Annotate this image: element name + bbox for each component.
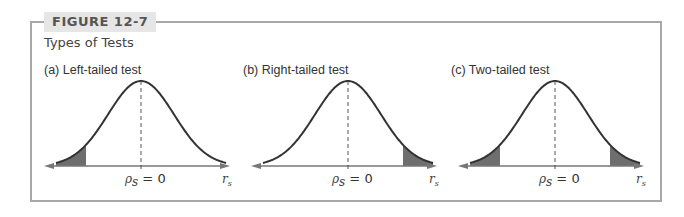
left-arrow-icon <box>251 163 261 169</box>
right-tailed-chart: ρs = 0rs <box>241 76 441 191</box>
panel-a-title: (a) Left-tailed test <box>44 63 141 77</box>
figure-title: Types of Tests <box>44 35 134 50</box>
left-arrow-icon <box>44 163 54 169</box>
two-tailed-chart: ρs = 0rs <box>448 76 648 191</box>
x-axis-label: rs <box>222 172 232 188</box>
x-axis-label: rs <box>636 172 646 188</box>
left-tailed-chart: ρs = 0rs <box>34 76 234 191</box>
panel-c-title: (c) Two-tailed test <box>451 63 549 77</box>
panel-b-title: (b) Right-tailed test <box>243 63 349 77</box>
left-arrow-icon <box>458 163 468 169</box>
center-label: ρs = 0 <box>538 171 580 189</box>
figure-label: FIGURE 12-7 <box>44 12 156 32</box>
center-label: ρs = 0 <box>331 171 373 189</box>
center-label: ρs = 0 <box>124 171 166 189</box>
right-arrow-icon <box>220 163 230 169</box>
x-axis-label: rs <box>429 172 439 188</box>
